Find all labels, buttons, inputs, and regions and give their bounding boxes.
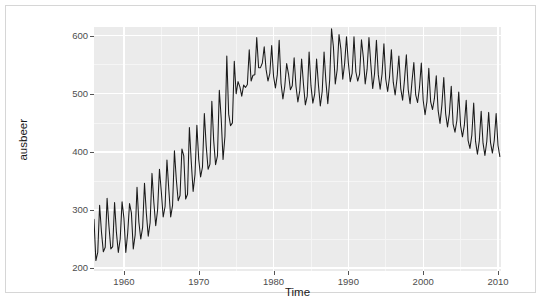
x-tick-mark (348, 271, 349, 275)
x-tick-label: 2010 (487, 277, 508, 287)
x-axis-title: Time (94, 287, 501, 299)
y-tick-label: 200 (72, 263, 88, 273)
plot-panel (94, 27, 501, 271)
x-tick-mark (199, 271, 200, 275)
x-tick-label: 2000 (413, 277, 434, 287)
x-tick-label: 1960 (113, 277, 134, 287)
y-tick-mark (90, 268, 94, 269)
y-axis-title: ausbeer (18, 80, 30, 200)
x-tick-mark (423, 271, 424, 275)
series-line-ausbeer (94, 27, 501, 271)
x-tick-mark (124, 271, 125, 275)
y-tick-label: 500 (72, 89, 88, 99)
figure-frame: 200300400500600 196019701980199020002010… (5, 5, 536, 293)
y-tick-mark (90, 36, 94, 37)
x-tick-label: 1980 (263, 277, 284, 287)
y-tick-label: 300 (72, 205, 88, 215)
y-tick-label: 400 (72, 147, 88, 157)
x-tick-label: 1990 (338, 277, 359, 287)
y-tick-mark (90, 94, 94, 95)
y-axis-tick-labels: 200300400500600 (61, 27, 88, 271)
y-tick-label: 600 (72, 31, 88, 41)
y-tick-mark (90, 152, 94, 153)
figure-canvas: 200300400500600 196019701980199020002010… (0, 0, 542, 301)
x-tick-label: 1970 (188, 277, 209, 287)
y-tick-mark (90, 210, 94, 211)
x-tick-mark (274, 271, 275, 275)
x-tick-mark (498, 271, 499, 275)
